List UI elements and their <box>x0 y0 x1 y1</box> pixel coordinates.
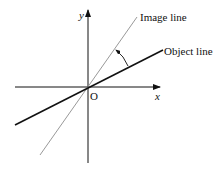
line-rotation-diagram: y x O Image line Object line <box>0 0 222 172</box>
object-line-label: Object line <box>164 45 213 57</box>
origin-label: O <box>90 90 98 102</box>
image-line-label: Image line <box>140 11 187 23</box>
rotation-arc-arrow <box>116 50 128 66</box>
x-axis-label: x <box>154 90 160 102</box>
y-axis-label: y <box>78 9 84 21</box>
